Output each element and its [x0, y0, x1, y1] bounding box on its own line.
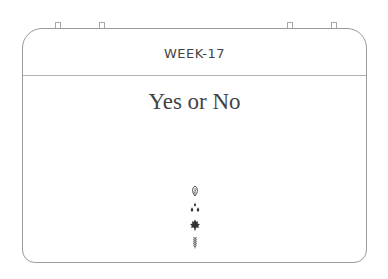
card-title: Yes or No	[23, 89, 366, 115]
droplets-icon	[189, 202, 201, 214]
icon-stack	[23, 185, 366, 249]
wheat-icon	[189, 236, 201, 249]
calendar-card[interactable]: WEEK-17 Yes or No	[22, 28, 367, 263]
week-label: WEEK-17	[164, 46, 225, 61]
leaf-outline-icon	[189, 185, 201, 197]
card-header: WEEK-17	[23, 29, 366, 76]
maple-leaf-icon	[189, 219, 201, 231]
